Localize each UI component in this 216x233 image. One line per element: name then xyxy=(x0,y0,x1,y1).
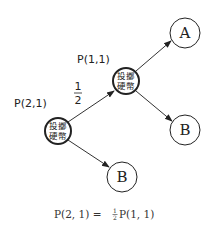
middle-coin-toss-node: 投擲 硬幣 xyxy=(113,68,139,94)
root-coin-toss-node: 投擲 硬幣 xyxy=(45,118,71,144)
root-node-line1: 投擲 xyxy=(49,121,67,131)
outcome-b-bottom-node: B xyxy=(107,162,137,192)
outcome-a-node: A xyxy=(170,18,200,48)
equation-fraction-numerator: 1 xyxy=(113,207,117,214)
recurrence-equation: P(2, 1) = 1 2 P(1, 1) xyxy=(54,207,154,221)
edge-probability-fraction: 1 2 xyxy=(74,80,82,107)
outcome-b-right-node: B xyxy=(170,115,200,145)
root-node-line2: 硬幣 xyxy=(49,131,67,141)
root-node-label: P(2,1) xyxy=(14,97,47,110)
fraction-denominator: 2 xyxy=(75,94,82,107)
middle-node-line1: 投擲 xyxy=(117,71,135,81)
fraction-numerator: 1 xyxy=(75,80,82,93)
equation-fraction-denominator: 2 xyxy=(113,214,117,221)
outcome-a-text: A xyxy=(179,24,191,42)
edge-root-to-b-bottom xyxy=(68,140,109,167)
middle-node-label: P(1,1) xyxy=(77,53,110,66)
outcome-b-right-text: B xyxy=(179,121,190,139)
edge-middle-to-b-right xyxy=(136,91,172,121)
equation-rhs: P(1, 1) xyxy=(119,208,154,220)
middle-node-line2: 硬幣 xyxy=(117,81,135,91)
outcome-b-bottom-text: B xyxy=(116,168,127,186)
probability-tree-diagram: 投擲 硬幣 P(2,1) 1 2 投擲 硬幣 P(1,1) A B B P(2,… xyxy=(0,0,216,233)
equation-lhs: P(2, 1) = xyxy=(54,208,101,220)
edge-middle-to-a xyxy=(136,41,171,71)
